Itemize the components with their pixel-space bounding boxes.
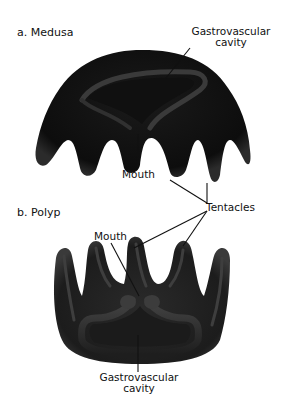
- polyp-cavity-label-line2: cavity: [96, 383, 182, 394]
- medusa-mouth-label: Mouth: [122, 169, 155, 180]
- polyp-mouth-label: Mouth: [94, 231, 127, 242]
- tentacles-leader-polyp-2: [183, 211, 207, 246]
- medusa-cavity-label-line2: cavity: [190, 37, 272, 48]
- panel-title-medusa: a. Medusa: [17, 27, 73, 38]
- tentacles-label: Tentacles: [206, 202, 255, 213]
- polyp-cavity-label: Gastrovascular cavity: [96, 372, 182, 394]
- tentacles-leader-polyp-1: [134, 211, 207, 248]
- polyp-mouth-lip-left: [120, 295, 136, 309]
- tentacles-leader-medusa-1: [170, 180, 207, 203]
- polyp-illustration: [54, 237, 230, 364]
- medusa-cavity-label: Gastrovascular cavity: [190, 26, 272, 48]
- medusa-illustration: [35, 50, 250, 182]
- polyp-mouth-lip-right: [144, 295, 160, 309]
- panel-title-polyp: b. Polyp: [17, 207, 61, 218]
